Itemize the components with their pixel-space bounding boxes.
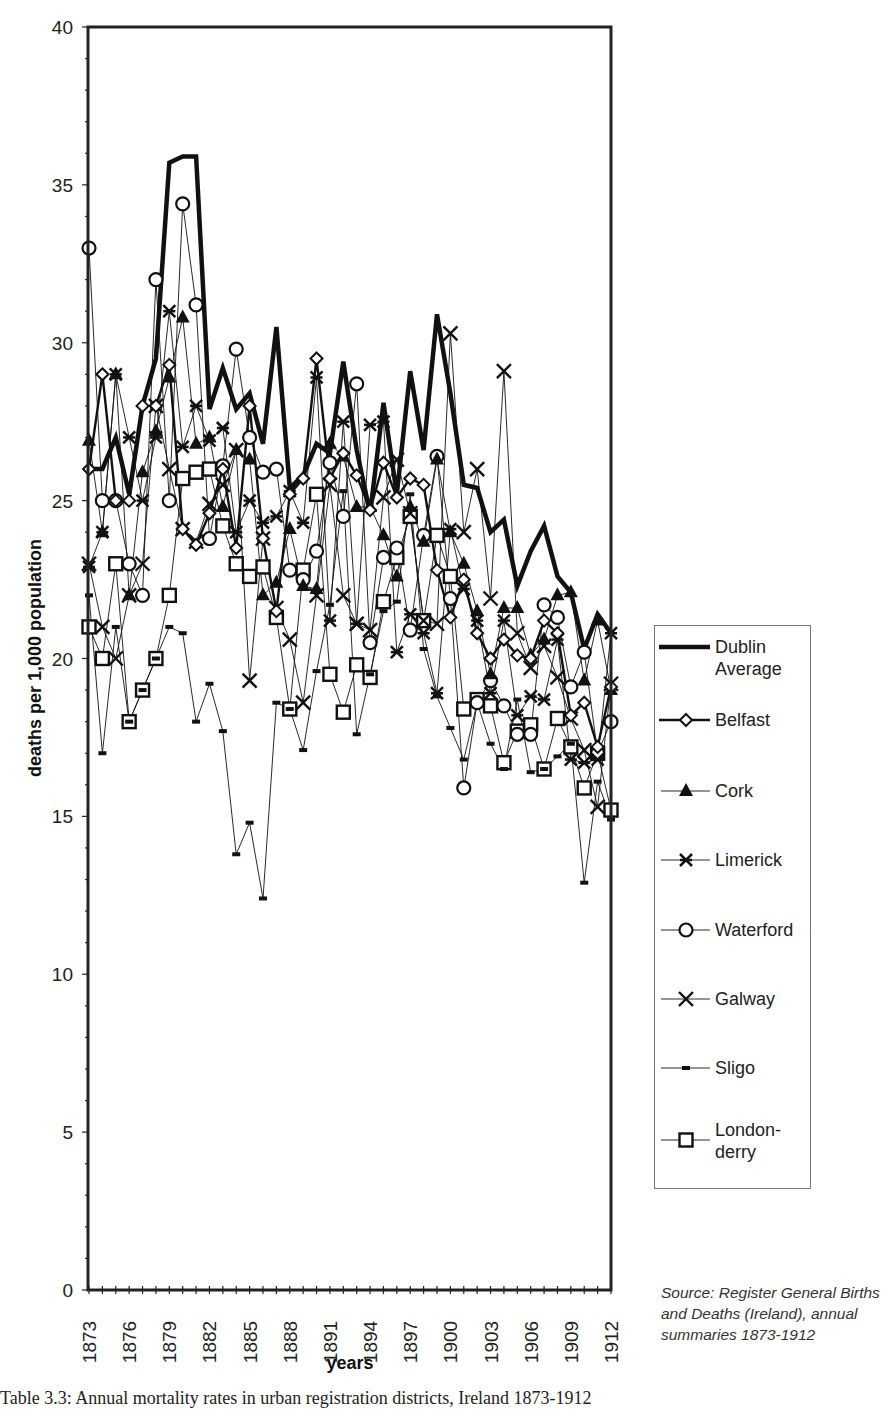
- square-marker-icon: [203, 463, 216, 476]
- circle-marker-icon: [404, 624, 417, 637]
- circle-marker-icon: [551, 611, 564, 624]
- dash-marker-icon: [219, 729, 227, 733]
- triangle-marker-icon: [376, 527, 390, 540]
- circle-marker-icon: [350, 377, 363, 390]
- diamond-marker-icon: [137, 400, 149, 412]
- dash-marker-icon: [460, 758, 468, 762]
- x-tick-label: 1897: [400, 1321, 421, 1363]
- asterisk-marker-icon: [538, 694, 550, 706]
- square-marker-icon: [96, 652, 109, 665]
- circle-marker-icon: [243, 431, 256, 444]
- dash-marker-icon: [393, 600, 401, 604]
- circle-marker-icon: [538, 598, 551, 611]
- square-marker-icon: [216, 519, 229, 532]
- y-axis-ticks: 0510152025303540: [52, 17, 89, 1301]
- square-marker-icon: [457, 703, 470, 716]
- asterisk-marker-icon: [578, 757, 590, 769]
- asterisk-marker-icon: [418, 627, 430, 639]
- asterisk-marker-icon: [485, 687, 497, 699]
- diamond-marker-icon: [431, 564, 443, 576]
- dash-marker-icon: [406, 492, 414, 496]
- square-marker-icon: [257, 560, 270, 573]
- dash-marker-icon: [527, 770, 535, 774]
- dash-marker-icon: [379, 609, 387, 613]
- diamond-marker-icon: [311, 353, 323, 365]
- square-marker-icon: [190, 466, 203, 479]
- dash-marker-icon: [299, 748, 307, 752]
- dash-marker-icon: [567, 742, 575, 746]
- x-tick-label: 1909: [561, 1321, 582, 1363]
- dash-marker-icon: [125, 720, 133, 724]
- series-lines: [82, 157, 618, 901]
- dash-marker-icon: [580, 881, 588, 885]
- circle-marker-icon: [203, 532, 216, 545]
- y-tick-label: 35: [52, 175, 73, 196]
- square-marker-icon: [337, 706, 350, 719]
- triangle-marker-icon: [510, 600, 524, 613]
- x-marker-icon: [591, 800, 605, 814]
- asterisk-marker-icon: [137, 495, 149, 507]
- x-axis-title: years: [326, 1353, 373, 1373]
- asterisk-marker-icon: [190, 400, 202, 412]
- triangle-marker-icon: [189, 436, 203, 449]
- x-tick-label: 1906: [521, 1321, 542, 1363]
- square-marker-icon: [431, 529, 444, 542]
- legend-frame: [654, 625, 811, 1189]
- series-line-dublin-average: [89, 157, 611, 650]
- dash-marker-icon: [366, 672, 374, 676]
- y-axis-title: deaths per 1,000 population: [25, 539, 45, 777]
- circle-marker-icon: [511, 728, 524, 741]
- dash-marker-icon: [540, 767, 548, 771]
- circle-marker-icon: [230, 343, 243, 356]
- x-tick-label: 1912: [601, 1321, 622, 1363]
- circle-marker-icon: [337, 510, 350, 523]
- dash-marker-icon: [313, 669, 321, 673]
- asterisk-marker-icon: [525, 690, 537, 702]
- x-tick-label: 1873: [79, 1321, 100, 1363]
- asterisk-marker-icon: [270, 510, 282, 522]
- circle-marker-icon: [163, 494, 176, 507]
- dash-marker-icon: [98, 751, 106, 755]
- y-tick-label: 40: [52, 17, 73, 38]
- asterisk-marker-icon: [471, 615, 483, 627]
- asterisk-marker-icon: [244, 495, 256, 507]
- asterisk-marker-icon: [498, 615, 510, 627]
- dash-marker-icon: [326, 603, 334, 607]
- x-tick-label: 1885: [240, 1321, 261, 1363]
- asterisk-marker-icon: [217, 422, 229, 434]
- circle-marker-icon: [444, 592, 457, 605]
- circle-marker-icon: [578, 646, 591, 659]
- dash-marker-icon: [272, 701, 280, 705]
- dash-marker-icon: [139, 688, 147, 692]
- dash-marker-icon: [205, 682, 213, 686]
- circle-marker-icon: [149, 273, 162, 286]
- square-marker-icon: [484, 699, 497, 712]
- x-tick-label: 1879: [159, 1321, 180, 1363]
- dash-marker-icon: [192, 720, 200, 724]
- circle-marker-icon: [190, 298, 203, 311]
- circle-marker-icon: [283, 564, 296, 577]
- y-tick-label: 10: [52, 964, 73, 985]
- dash-marker-icon: [594, 780, 602, 784]
- circle-marker-icon: [123, 557, 136, 570]
- circle-marker-icon: [471, 696, 484, 709]
- dash-marker-icon: [179, 631, 187, 635]
- circle-marker-icon: [364, 636, 377, 649]
- diamond-marker-icon: [364, 504, 376, 516]
- circle-marker-icon: [270, 463, 283, 476]
- diamond-marker-icon: [418, 479, 430, 491]
- square-marker-icon: [230, 557, 243, 570]
- y-tick-label: 0: [62, 1280, 73, 1301]
- dash-marker-icon: [513, 698, 521, 702]
- square-marker-icon: [176, 472, 189, 485]
- diamond-marker-icon: [96, 368, 108, 380]
- dash-marker-icon: [286, 707, 294, 711]
- dash-marker-icon: [446, 726, 454, 730]
- circle-marker-icon: [310, 545, 323, 558]
- asterisk-marker-icon: [511, 709, 523, 721]
- triangle-marker-icon: [403, 499, 417, 512]
- asterisk-marker-icon: [404, 608, 416, 620]
- y-tick-label: 25: [52, 491, 73, 512]
- circle-marker-icon: [564, 680, 577, 693]
- x-marker-icon: [376, 490, 390, 504]
